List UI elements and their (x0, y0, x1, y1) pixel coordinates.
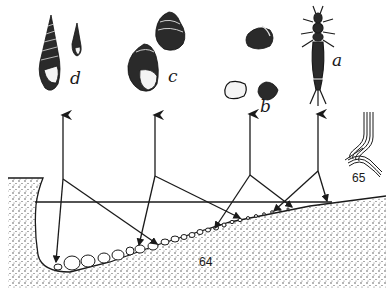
figure-65-label: 65 (352, 171, 366, 185)
figure-64-label: 64 (199, 255, 213, 269)
label-c: c (168, 66, 178, 86)
label-a: a (332, 50, 342, 70)
lake-zonation-diagram: d c b a (0, 0, 386, 288)
diagram-svg: d c b a (0, 0, 386, 288)
plant-stem-detail-icon (345, 112, 382, 177)
label-b: b (260, 96, 271, 116)
zone-a-lines (274, 114, 327, 211)
label-d: d (70, 68, 81, 88)
insect-larva-icon (301, 6, 335, 106)
bivalve-shells-icon (225, 26, 278, 100)
zone-d-lines (56, 115, 157, 262)
